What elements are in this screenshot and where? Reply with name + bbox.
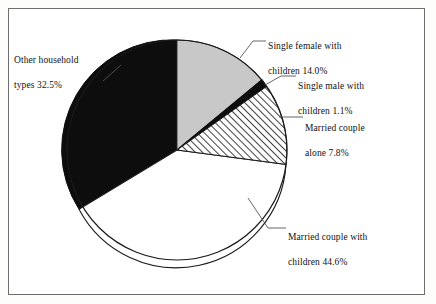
slice-label-line2: types 32.5% xyxy=(14,79,134,91)
slice-label-line1: Married couple with xyxy=(288,231,433,243)
leader-line-single-female-with-children xyxy=(240,41,266,58)
slice-label-line2: children 44.6% xyxy=(288,256,433,268)
pie-chart-figure: Other household types 32.5% Single femal… xyxy=(0,0,436,304)
slice-label-line1: Other household xyxy=(14,54,134,66)
slice-label-line2: alone 7.8% xyxy=(305,147,430,159)
slice-label-line1: Single male with xyxy=(298,80,433,92)
slice-label-line1: Married couple xyxy=(305,122,430,134)
slice-label-line1: Single female with xyxy=(268,40,428,52)
slice-label-other-household-types: Other household types 32.5% xyxy=(14,42,134,103)
slice-label-married-couple-alone: Married couple alone 7.8% xyxy=(305,110,430,171)
slice-label-married-couple-with-children: Married couple with children 44.6% xyxy=(288,219,433,280)
